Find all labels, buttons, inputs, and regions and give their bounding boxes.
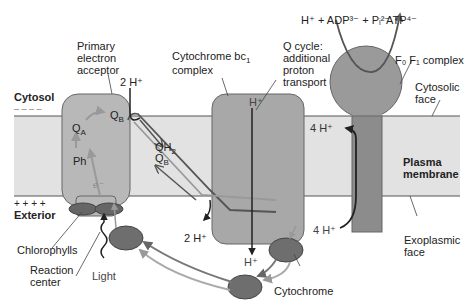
qcycle-line3: proton — [283, 64, 314, 76]
reaction-center-line1: Reaction — [30, 264, 73, 276]
bc1-label-text: Cytochrome bc — [172, 50, 246, 62]
qcycle-line1: Q cycle: — [283, 40, 323, 52]
proton-release-2h — [204, 200, 210, 220]
cytosol-charge: – – – – — [14, 104, 42, 114]
proton-2h-bottom: 2 H⁺ — [184, 232, 207, 244]
qb-sub: B — [119, 115, 124, 124]
cytosolic-face-line2: face — [415, 93, 436, 105]
cyt-arrow-3-to-1-light — [140, 250, 230, 290]
cytosolic-face-line1: Cytosolic — [415, 81, 460, 93]
cytochrome-2 — [269, 238, 303, 262]
exoplasmic-face-line2: face — [404, 246, 425, 258]
cytochrome-label: Cytochrome — [274, 285, 333, 297]
cyt-arrow-2-to-3 — [258, 260, 276, 276]
cytosol-label: Cytosol — [14, 91, 54, 103]
qcycle-line4: transport — [283, 76, 326, 88]
cytochrome-3 — [228, 275, 262, 299]
qh2-text: QH — [155, 141, 172, 153]
reaction-center-line2: center — [30, 276, 61, 288]
light-label: Light — [92, 270, 116, 282]
leader-exoplasmic-face — [410, 196, 417, 216]
light-wave-icon — [101, 214, 107, 258]
ph-label: Ph — [73, 155, 86, 167]
cyt-arrow-2-to-3-light — [264, 262, 290, 280]
exoplasmic-face-line1: Exoplasmic — [404, 234, 461, 246]
photosynthesis-diagram: Cytosol – – – – + + + + Exterior Primary… — [0, 0, 475, 308]
f0f1-label: F₀ F₁ complex — [395, 54, 464, 66]
proton-2h-top: 2 H⁺ — [120, 76, 143, 88]
proton-bc1-top: H⁺ — [249, 96, 263, 108]
plasma-membrane-line2: membrane — [403, 168, 459, 180]
primary-acceptor-line1: Primary — [77, 40, 115, 52]
primary-acceptor-line3: acceptor — [77, 64, 120, 76]
leader-bc1 — [222, 78, 228, 96]
cytochrome-bc1-complex — [212, 94, 304, 244]
bc1-label-line1: Cytochrome bc1 — [172, 50, 251, 65]
chlorophyll-right — [95, 203, 123, 215]
bc1-label-line2: complex — [172, 64, 213, 76]
primary-acceptor-line2: electron — [77, 52, 116, 64]
proton-bc1-bottom: H⁺ — [244, 256, 258, 268]
chlorophylls-label: Chlorophylls — [17, 244, 78, 256]
qb2-sub: B — [164, 158, 169, 167]
reaction-substrates: H⁺ + ADP³⁻ + Pᵢ²⁻ — [301, 14, 390, 26]
exterior-charge: + + + + — [14, 198, 46, 209]
qcycle-line2: additional — [283, 52, 330, 64]
plasma-membrane-line1: Plasma — [403, 156, 442, 168]
cytochrome-1 — [109, 226, 143, 250]
leader-primary-acceptor — [108, 74, 112, 94]
chlorophyll-left — [69, 203, 97, 215]
bc1-label-sub: 1 — [246, 56, 251, 65]
f1-head — [330, 46, 402, 118]
exterior-label: Exterior — [14, 209, 56, 221]
qa-sub: A — [81, 128, 87, 137]
proton-4h-top: 4 H⁺ — [310, 122, 333, 134]
electron-label: e⁻ — [93, 180, 104, 190]
leader-chlorophylls — [52, 212, 82, 248]
reaction-product: ATP⁴⁻ — [386, 14, 417, 26]
proton-4h-bottom: 4 H⁺ — [313, 224, 336, 236]
qh2-sub: 2 — [172, 147, 177, 156]
